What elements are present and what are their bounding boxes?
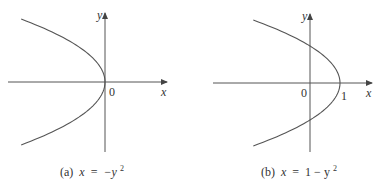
caption-a-exponent: 2 (120, 164, 124, 173)
tick-label-1-b: 1 (341, 89, 347, 103)
caption-a-rhs: −y (103, 165, 117, 179)
x-axis-label-a: x (160, 85, 167, 99)
caption-a-lhs: x (78, 165, 85, 179)
caption-b-prefix: (b) (261, 165, 275, 179)
caption-b-rhs: 1 − y (305, 165, 330, 179)
origin-label-a: 0 (109, 85, 115, 99)
caption-a: (a) x = −y 2 (60, 164, 124, 179)
caption-a-op: = (91, 165, 98, 179)
origin-label-b: 0 (301, 86, 307, 100)
y-axis-label-b: y (301, 9, 308, 23)
panel-b: y x 0 1 (b) x = 1 − y 2 (213, 9, 372, 179)
figure-canvas: y x 0 (a) x = −y 2 y x 0 1 (b) x = 1 − y… (0, 0, 386, 188)
panel-a: y x 0 (a) x = −y 2 (8, 8, 167, 179)
caption-b: (b) x = 1 − y 2 (261, 164, 337, 179)
y-axis-label-a: y (96, 8, 103, 22)
caption-b-exponent: 2 (333, 164, 337, 173)
caption-b-lhs: x (280, 165, 287, 179)
x-axis-label-b: x (365, 86, 372, 100)
caption-a-prefix: (a) (60, 165, 73, 179)
caption-b-op: = (292, 165, 299, 179)
